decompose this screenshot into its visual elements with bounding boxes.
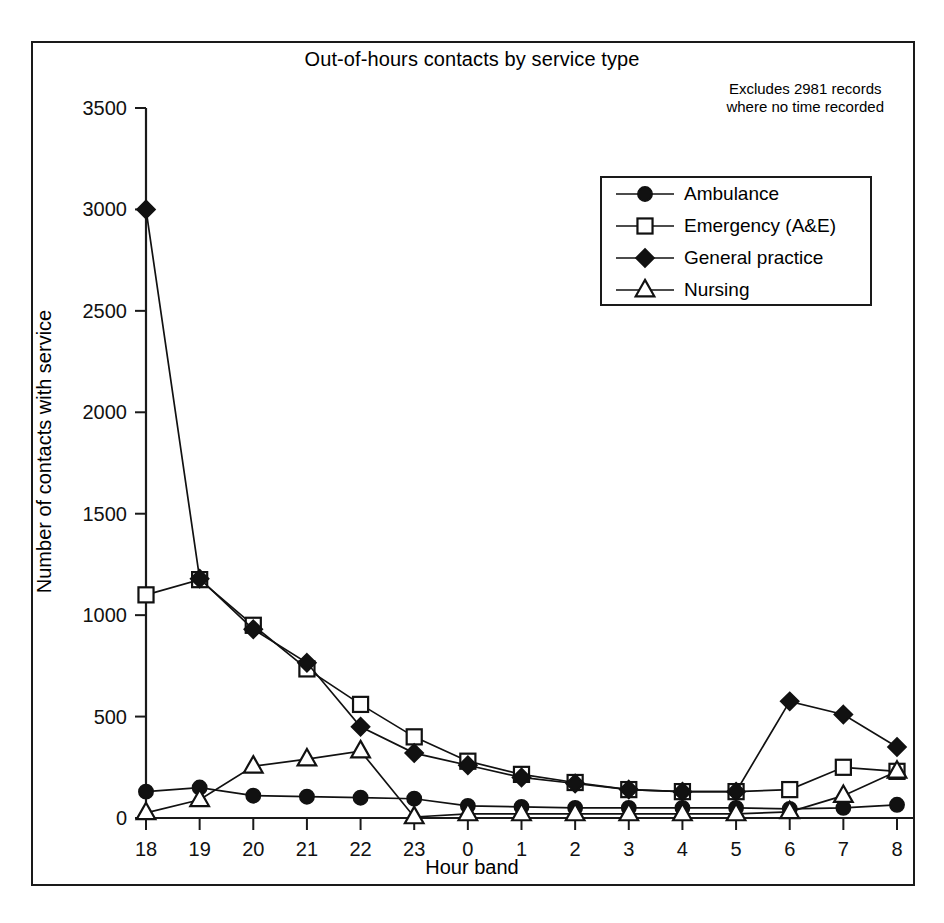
x-tick-label: 21 bbox=[296, 838, 318, 860]
open-square-icon bbox=[614, 212, 676, 240]
legend-item[interactable]: Ambulance bbox=[602, 178, 870, 210]
x-tick-label: 20 bbox=[242, 838, 264, 860]
x-tick-label: 5 bbox=[731, 838, 742, 860]
legend-label: Ambulance bbox=[676, 183, 779, 205]
y-tick-label: 1500 bbox=[83, 503, 128, 525]
legend-item[interactable]: Emergency (A&E) bbox=[602, 210, 870, 242]
data-point bbox=[139, 784, 153, 798]
data-point bbox=[407, 729, 422, 744]
x-tick-label: 19 bbox=[189, 838, 211, 860]
data-point bbox=[405, 744, 423, 762]
x-tick-label: 22 bbox=[349, 838, 371, 860]
data-point bbox=[244, 756, 263, 772]
data-point bbox=[888, 738, 906, 756]
open-triangle-icon bbox=[614, 276, 676, 304]
y-tick-label: 2500 bbox=[83, 300, 128, 322]
legend-item[interactable]: General practice bbox=[602, 242, 870, 274]
data-point bbox=[298, 749, 317, 765]
y-tick-label: 2000 bbox=[83, 401, 128, 423]
filled-diamond-icon bbox=[614, 244, 676, 272]
chart-page: Out-of-hours contacts by service type Ex… bbox=[0, 0, 944, 923]
legend: AmbulanceEmergency (A&E)General practice… bbox=[600, 176, 872, 306]
filled-circle-icon bbox=[614, 180, 676, 208]
data-point bbox=[407, 792, 421, 806]
x-tick-label: 0 bbox=[462, 838, 473, 860]
x-tick-label: 1 bbox=[516, 838, 527, 860]
x-tick-label: 18 bbox=[135, 838, 157, 860]
data-point bbox=[246, 789, 260, 803]
data-point bbox=[353, 697, 368, 712]
data-point bbox=[782, 782, 797, 797]
x-tick-label: 7 bbox=[838, 838, 849, 860]
plot-area: 0500100015002000250030003500 18192021222… bbox=[0, 0, 944, 923]
data-point bbox=[890, 798, 904, 812]
y-tick-label: 500 bbox=[94, 706, 127, 728]
x-tick-label: 4 bbox=[677, 838, 688, 860]
data-point bbox=[138, 587, 153, 602]
legend-item[interactable]: Nursing bbox=[602, 274, 870, 306]
legend-label: General practice bbox=[676, 247, 823, 269]
data-point bbox=[836, 760, 851, 775]
data-point bbox=[300, 790, 314, 804]
y-tick-label: 1000 bbox=[83, 604, 128, 626]
data-point bbox=[781, 692, 799, 710]
data-point bbox=[351, 741, 370, 757]
data-point bbox=[834, 705, 852, 723]
x-tick-label: 2 bbox=[570, 838, 581, 860]
data-point bbox=[137, 200, 155, 218]
x-tick-label: 3 bbox=[623, 838, 634, 860]
x-tick-label: 8 bbox=[891, 838, 902, 860]
data-point bbox=[834, 786, 853, 802]
y-axis: 0500100015002000250030003500 bbox=[83, 97, 147, 829]
y-tick-label: 3000 bbox=[83, 198, 128, 220]
y-tick-label: 0 bbox=[116, 807, 127, 829]
x-axis: 181920212223012345678 bbox=[135, 818, 915, 860]
legend-label: Nursing bbox=[676, 279, 749, 301]
x-tick-label: 23 bbox=[403, 838, 425, 860]
legend-label: Emergency (A&E) bbox=[676, 215, 836, 237]
y-tick-label: 3500 bbox=[83, 97, 128, 119]
x-tick-label: 6 bbox=[784, 838, 795, 860]
data-point bbox=[353, 791, 367, 805]
